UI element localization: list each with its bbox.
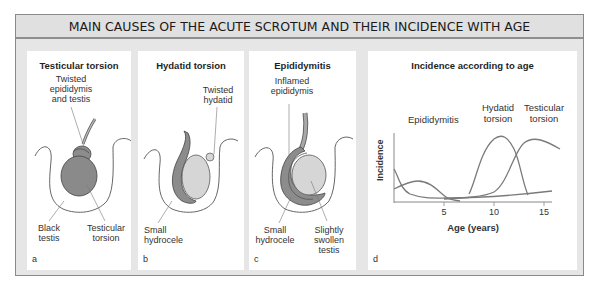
panel-epididymitis: Epididymitis Inflamed epididymis Small h… <box>249 51 356 270</box>
annotation-hydatid-torsion: Hydatidtorsion <box>480 102 516 124</box>
figure-frame: MAIN CAUSES OF THE ACUTE SCROTUM AND THE… <box>15 14 584 276</box>
label-small-hydrocele: Small hydrocele <box>144 225 188 245</box>
title-bar: MAIN CAUSES OF THE ACUTE SCROTUM AND THE… <box>16 15 583 39</box>
x-tick-15: 15 <box>537 207 551 217</box>
panel-hydatid-torsion: Hydatid torsion Twisted hydatid Small hy… <box>138 51 244 270</box>
annotation-epididymitis: Epididymitis <box>408 115 459 125</box>
figure-title: MAIN CAUSES OF THE ACUTE SCROTUM AND THE… <box>69 19 531 34</box>
panel-letter: a <box>32 254 37 264</box>
x-tick-5: 5 <box>438 207 450 217</box>
y-axis-label: Incidence <box>375 141 385 181</box>
label-black-testis: Black testis <box>31 223 67 243</box>
label-slightly-swollen-testis: Slightly swollen testis <box>307 225 351 255</box>
panel-testicular-torsion: Testicular torsion Twisted epididymis an… <box>27 51 131 270</box>
label-testicular-torsion: Testicular torsion <box>81 223 131 243</box>
label-small-hydrocele: Small hydrocele <box>253 225 297 245</box>
panel-letter: d <box>373 254 378 264</box>
incidence-line-chart <box>368 51 577 270</box>
x-tick-10: 10 <box>487 207 501 217</box>
panel-letter: b <box>143 254 148 264</box>
panel-incidence-chart: Incidence according to age Epididymitis … <box>368 51 577 270</box>
x-axis-label: Age (years) <box>428 223 518 233</box>
panel-letter: c <box>254 254 259 264</box>
annotation-testicular-torsion: Testiculartorsion <box>519 102 569 124</box>
